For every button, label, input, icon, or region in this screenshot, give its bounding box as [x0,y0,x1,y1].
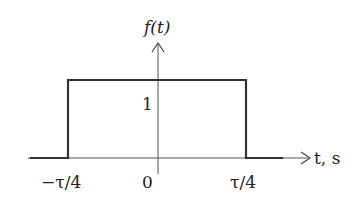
pulse-chart: f(t) t, s 1 −τ/4 0 τ/4 [0,0,362,205]
tick-label-tau-4: τ/4 [230,172,256,192]
pulse-signal [30,80,283,158]
y-axis-label: f(t) [142,17,170,37]
tick-label-zero: 0 [142,172,153,192]
tick-label-one: 1 [142,94,153,114]
tick-label-neg-tau-4: −τ/4 [41,172,81,192]
x-axis-label: t, s [314,148,340,168]
